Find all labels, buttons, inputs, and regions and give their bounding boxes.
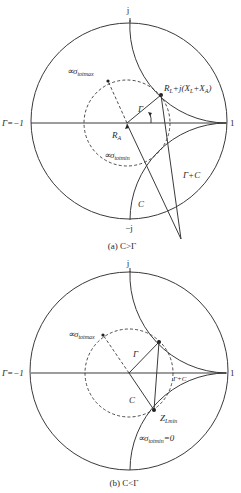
label-c: C [138,199,145,209]
unit-circle [30,272,228,470]
label-load-point: RL+j(XL+XA) [163,83,212,94]
gamma-vector [127,95,161,123]
label-gamma: Γ [132,349,139,359]
angle-arrow-icon [148,112,152,116]
label-c: C [129,395,136,405]
gamma-plus-c-vector [154,342,159,410]
label-right: 1 [230,118,235,128]
caption-b: (b) C<Γ [109,478,138,488]
label-gamma: Γ [137,104,144,114]
max-point [106,79,109,82]
label-left: Γ=−1 [1,118,24,128]
panel-a: j −j Γ=−1 1 RA Γ C Γ+C ∝σtotmax ∝σtotmin… [1,5,235,251]
label-left: Γ=−1 [1,368,24,378]
label-right: 1 [230,368,235,378]
label-gamma-plus-c: Γ+C [182,170,201,180]
label-sigma-min: ∝σtotmin [104,150,130,161]
upper-reactance-arc [130,20,226,123]
z-lmin-point [152,408,156,412]
radius-to-max [103,335,129,373]
lower-reactance-arc [130,373,226,470]
label-sigma-max: ∝σtotmax [68,329,95,340]
label-top: j [126,258,130,268]
radius-to-max [108,81,127,123]
label-center: RA [111,130,122,141]
label-sigma-min: ∝σtotmin=0 [138,433,175,444]
label-bottom: −j [125,223,133,233]
label-top: j [126,5,130,15]
max-point [101,333,104,336]
panel-b: j Γ=−1 1 Γ C Γ+C ∝σtotmax ZLmin ∝σtotmin… [1,258,235,488]
label-z-lmin: ZLmin [160,413,177,424]
caption-a: (a) C>Γ [108,241,137,251]
label-sigma-max: ∝σtotmax [67,66,94,77]
label-gamma-plus-c: Γ+C [172,375,187,383]
smith-chart-figure: j −j Γ=−1 1 RA Γ C Γ+C ∝σtotmax ∝σtotmin… [0,0,241,493]
